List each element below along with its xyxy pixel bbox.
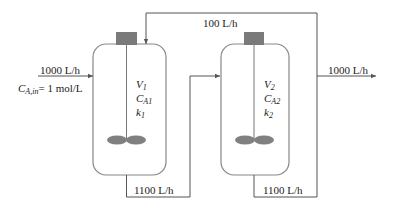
- reactor-2-outflow-label: 1100 L/h: [263, 184, 303, 196]
- reactor-1-impeller-right: [126, 136, 146, 145]
- reactor-2-motor: [244, 32, 264, 45]
- volume-subscript: 1: [143, 83, 147, 92]
- reactor-1-tank: [93, 44, 166, 175]
- reactor-2-rate-constant: k2: [264, 106, 273, 122]
- volume-symbol: V: [136, 78, 143, 90]
- rate-subscript: 2: [269, 111, 273, 120]
- process-flow-diagram: [0, 0, 395, 212]
- recycle-flow-label: 100 L/h: [203, 17, 238, 29]
- concentration-subscript: A1: [143, 97, 152, 106]
- volume-subscript: 2: [271, 83, 275, 92]
- reactor-2-tank: [221, 44, 289, 175]
- inlet-concentration-subscript: A,in: [25, 87, 38, 96]
- outlet-flow-label: 1000 L/h: [328, 64, 368, 76]
- inlet-concentration-value: = 1 mol/L: [38, 82, 82, 94]
- reactor-1-impeller-left: [107, 136, 127, 145]
- inlet-concentration-label: CA,in= 1 mol/L: [18, 82, 83, 98]
- reactor-2-impeller-right: [254, 136, 274, 145]
- reactor-1: [93, 32, 166, 175]
- reactor-1-rate-constant: k1: [136, 106, 145, 122]
- inlet-flow-label: 1000 L/h: [40, 64, 80, 76]
- volume-symbol: V: [264, 78, 271, 90]
- concentration-subscript: A2: [271, 97, 280, 106]
- reactor-1-outflow-label: 1100 L/h: [134, 184, 174, 196]
- reactor-2-impeller-left: [235, 136, 255, 145]
- rate-subscript: 1: [141, 111, 145, 120]
- reactor-1-motor: [116, 32, 137, 45]
